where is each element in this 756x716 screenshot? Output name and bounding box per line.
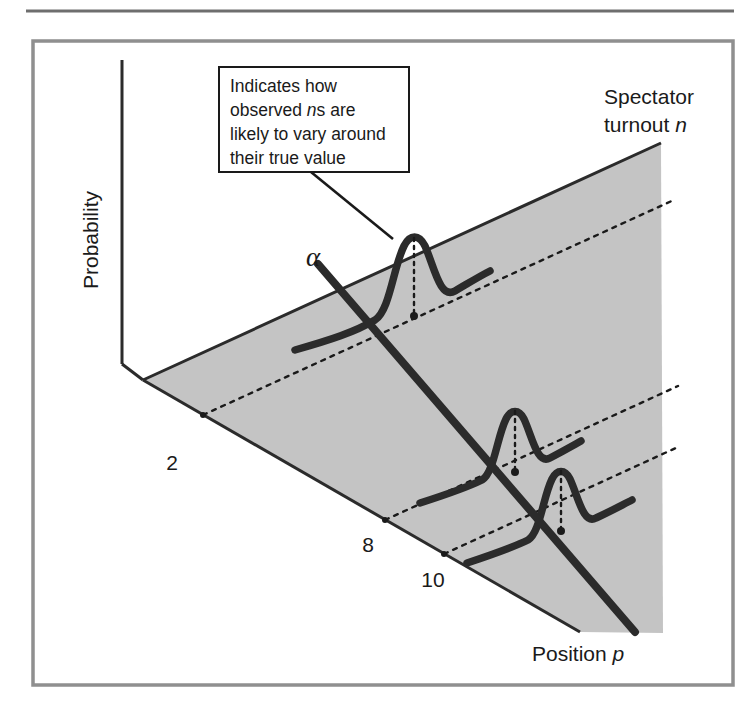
callout-line-1: Indicates how: [230, 76, 337, 96]
callout-line-3: likely to vary around: [230, 124, 386, 144]
tick-mark-p10: [441, 551, 447, 557]
x-axis-label: Position p: [532, 642, 624, 665]
tick-mark-p8: [382, 517, 388, 523]
tick-label-8: 8: [362, 533, 374, 556]
x-axis-label-variable: p: [612, 642, 625, 665]
slope-symbol-alpha: α: [306, 242, 321, 272]
callout-line-2-var: n: [307, 100, 317, 120]
callout-line-4: their true value: [230, 148, 346, 168]
depth-axis-label-variable: n: [675, 113, 687, 136]
x-axis-label-prefix: Position: [532, 642, 613, 665]
regression-point-p8: [511, 468, 519, 476]
tick-label-10: 10: [421, 568, 444, 591]
regression-point-p2: [410, 312, 418, 320]
callout-line-2-b: s are: [317, 100, 356, 120]
regression-point-p10: [557, 527, 565, 535]
callout-line-2-a: observed: [230, 100, 307, 120]
callout-line-2: observed ns are: [230, 100, 356, 120]
depth-axis-label-line2: turnout n: [604, 113, 687, 136]
depth-axis-label-line2-prefix: turnout: [604, 113, 675, 136]
figure-page: Indicates how observed ns are likely to …: [0, 0, 756, 716]
figure-canvas: Indicates how observed ns are likely to …: [0, 0, 756, 716]
depth-axis-label-line1: Spectator: [604, 85, 694, 108]
tick-mark-p2: [200, 412, 206, 418]
tick-label-2: 2: [166, 451, 178, 474]
y-axis-label: Probability: [79, 190, 102, 289]
